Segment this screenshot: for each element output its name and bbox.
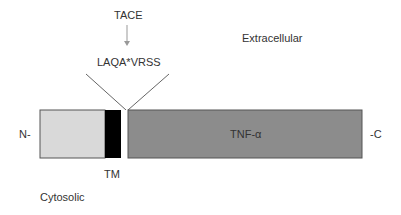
tnf-alpha-label: TNF-α <box>230 128 261 140</box>
cytosolic-label: Cytosolic <box>40 191 85 203</box>
extracellular-label: Extracellular <box>242 32 303 44</box>
tace-label: TACE <box>114 9 143 21</box>
c-terminus-label: -C <box>370 128 382 140</box>
tm-label: TM <box>104 168 120 180</box>
diagram-canvas <box>0 0 401 215</box>
n-terminus-label: N- <box>19 128 31 140</box>
cytoplasmic-segment <box>40 110 105 158</box>
transmembrane-segment <box>105 110 121 158</box>
cleavage-site-label: LAQA*VRSS <box>97 56 161 68</box>
linker-segment <box>121 110 128 158</box>
cleavage-line-right <box>128 74 169 110</box>
tace-arrow-head <box>124 41 130 46</box>
cleavage-line-left <box>86 74 126 110</box>
